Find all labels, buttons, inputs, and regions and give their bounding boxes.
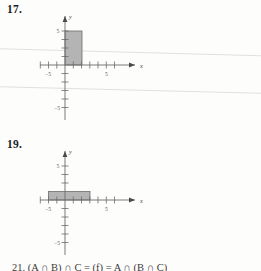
coordinate-plane-19: −5 5 5 −5 x y bbox=[22, 145, 152, 263]
problem-number-19: 19. bbox=[7, 138, 22, 150]
y-axis-label-19: y bbox=[68, 148, 72, 155]
problem-number-17: 17. bbox=[7, 3, 22, 15]
y-axis-label-17: y bbox=[68, 13, 72, 20]
y-tick-label-5-19: 5 bbox=[57, 163, 60, 169]
x-tick-label-5-17: 5 bbox=[105, 71, 108, 77]
coordinate-plane-17: −5 5 5 −5 x y bbox=[22, 10, 152, 128]
y-tick-label-neg5-19: −5 bbox=[54, 240, 60, 246]
problem-21-cutoff-text: 21. (A ∩ B) ∩ C = (f) = A ∩ (B ∩ C) bbox=[12, 262, 167, 271]
scanned-page: 17. bbox=[0, 0, 261, 271]
graph-problem-19: −5 5 5 −5 x y bbox=[22, 145, 152, 263]
x-tick-label-neg5-19: −5 bbox=[45, 206, 51, 212]
shaded-region-19 bbox=[49, 192, 91, 201]
graph-problem-17: −5 5 5 −5 x y bbox=[22, 10, 152, 128]
x-tick-label-neg5-17: −5 bbox=[45, 71, 51, 77]
y-tick-label-neg5-17: −5 bbox=[54, 105, 60, 111]
x-tick-label-5-19: 5 bbox=[105, 206, 108, 212]
x-axis-label-17: x bbox=[139, 62, 143, 69]
x-axis-label-19: x bbox=[139, 197, 143, 204]
y-tick-label-5-17: 5 bbox=[57, 28, 60, 34]
